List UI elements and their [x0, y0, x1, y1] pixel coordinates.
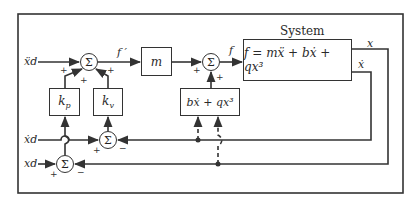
- kp-block: kp: [49, 88, 80, 116]
- vel-desired-label: ẋd: [24, 134, 37, 145]
- fprime-label: f ′: [117, 47, 127, 58]
- summing-junction-1: Σ: [80, 53, 98, 71]
- minus-sign: −: [119, 144, 127, 153]
- accel-desired-label: ẍd: [24, 56, 37, 67]
- system-block: f = mẍ + bẋ + qx³: [243, 39, 352, 81]
- position-output-label: x: [367, 38, 373, 49]
- plus-sign: +: [80, 76, 88, 85]
- plus-sign: +: [93, 146, 101, 155]
- velocity-output-label: ẋ: [358, 59, 364, 70]
- plus-sign: +: [216, 73, 224, 82]
- kv-label: kv: [102, 94, 114, 110]
- sigma-symbol: Σ: [61, 158, 69, 171]
- summing-junction-4: Σ: [56, 155, 74, 173]
- nonlinear-label: bẋ + qx³: [186, 96, 233, 109]
- plus-sign: +: [193, 66, 201, 75]
- plus-sign: +: [50, 170, 58, 179]
- mass-block: m: [141, 47, 172, 76]
- f-label: f: [229, 45, 233, 56]
- velocity-feedback-line: [118, 72, 371, 140]
- sigma-symbol: Σ: [104, 134, 112, 147]
- sigma-symbol: Σ: [207, 56, 215, 69]
- junction-dot: [196, 138, 201, 143]
- sigma-symbol: Σ: [85, 56, 93, 69]
- system-title: System: [280, 25, 324, 37]
- pos-desired-label: xd: [24, 158, 37, 169]
- nonlinear-block: bẋ + qx³: [180, 88, 240, 116]
- junction-dot: [216, 162, 221, 167]
- system-equation: f = mẍ + bẋ + qx³: [244, 46, 351, 74]
- mass-label: m: [151, 55, 162, 69]
- summing-junction-3: Σ: [99, 131, 117, 149]
- plus-sign: +: [60, 66, 68, 75]
- plus-sign: +: [107, 66, 115, 75]
- kv-block: kv: [93, 88, 123, 116]
- summing-junction-2: Σ: [202, 53, 220, 71]
- minus-sign: −: [77, 168, 85, 177]
- kp-label: kp: [58, 94, 70, 110]
